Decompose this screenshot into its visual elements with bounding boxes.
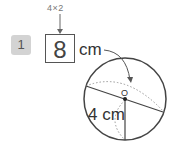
sphere-diagram: O — [0, 0, 178, 148]
problem-number-badge: 1 — [11, 35, 31, 55]
radius-label: 4 cm — [88, 105, 125, 125]
answer-box: 8 — [45, 34, 75, 63]
hint-text: 4×2 — [47, 3, 64, 13]
pointer-arrowhead-icon — [127, 77, 133, 83]
center-label: O — [121, 88, 128, 98]
unit-label: cm — [79, 40, 102, 60]
pointer-arrow — [104, 50, 130, 80]
